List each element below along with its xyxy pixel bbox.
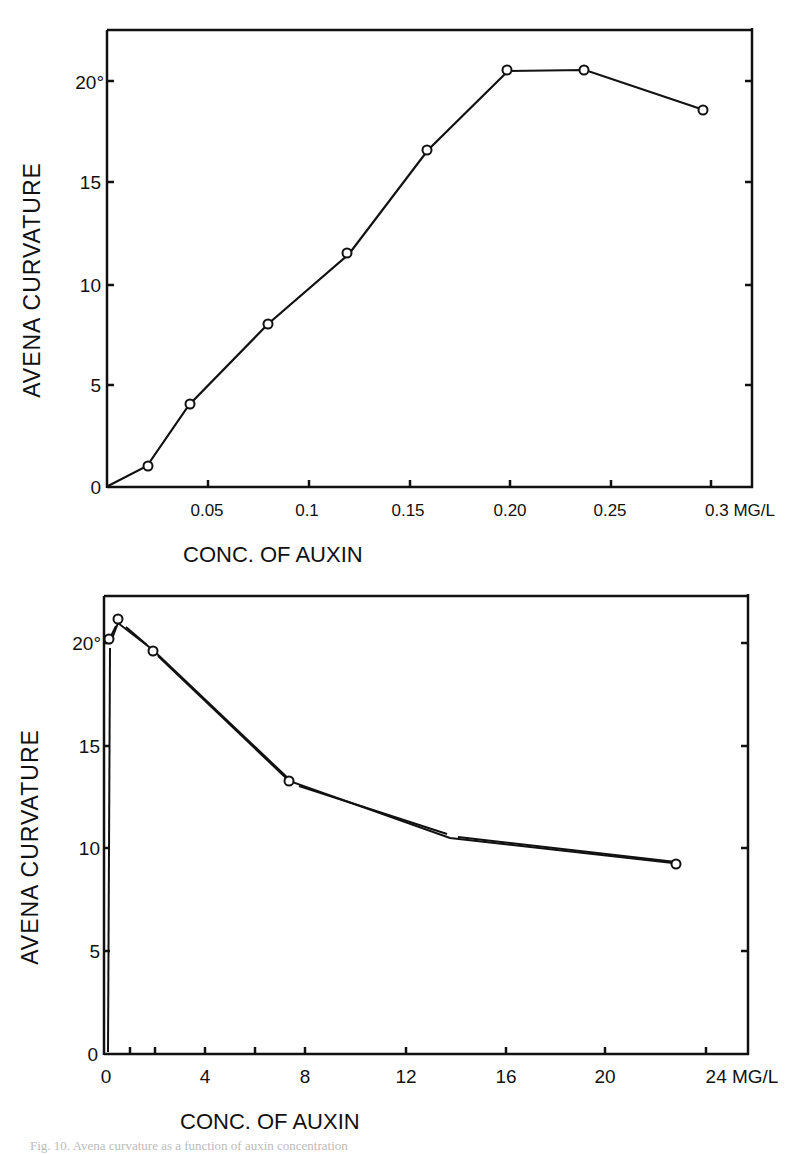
- data-point: [580, 66, 589, 75]
- y-tick-labels: 0 5 10 15 20°: [72, 633, 101, 1065]
- data-point: [285, 777, 294, 786]
- y-tick-labels: 0 5 10 15 20°: [75, 72, 104, 498]
- y-tick-label: 15: [80, 172, 101, 193]
- x-tick-label: 0.1: [295, 501, 319, 520]
- x-tick-label: 8: [300, 1066, 311, 1087]
- y-tick-label: 10: [79, 838, 100, 859]
- data-point: [149, 647, 158, 656]
- data-point: [503, 66, 512, 75]
- x-tick-label: 16: [495, 1066, 516, 1087]
- y-tick-label: 10: [80, 275, 101, 296]
- x-tick-label: 0.25: [593, 501, 626, 520]
- y-axis-title: AVENA CURVATURE: [17, 729, 43, 965]
- plot-frame: [104, 594, 749, 1055]
- y-tick-label: 20°: [72, 633, 101, 654]
- x-tick-label: 12: [395, 1066, 416, 1087]
- y-tick-label: 0: [87, 1044, 98, 1065]
- x-axis-title: CONC. OF AUXIN: [183, 542, 363, 567]
- chart-bottom: 0 5 10 15 20° 0 4 8 12 16 20 24 MG/L AVE…: [0, 575, 807, 1150]
- x-tick-label: 4: [200, 1066, 211, 1087]
- data-line: [108, 626, 676, 1052]
- y-axis-title: AVENA CURVATURE: [19, 162, 45, 398]
- data-point: [264, 320, 273, 329]
- y-tick-label: 5: [89, 941, 100, 962]
- data-point: [114, 615, 123, 624]
- y-tick-label: 0: [90, 477, 101, 498]
- plot-frame: [107, 28, 753, 488]
- x-tick-labels: 0 4 8 12 16 20 24 MG/L: [101, 1066, 779, 1087]
- x-tick-label: 24 MG/L: [706, 1066, 779, 1087]
- data-markers: [105, 615, 681, 869]
- x-tick-label: 0.20: [493, 501, 526, 520]
- x-axis-title: CONC. OF AUXIN: [180, 1109, 360, 1134]
- x-tick-label: 0.05: [190, 501, 223, 520]
- figure-caption: Fig. 10. Avena curvature as a function o…: [0, 1138, 807, 1154]
- y-tick-label: 5: [90, 375, 101, 396]
- x-tick-label: 0.3 MG/L: [705, 501, 775, 520]
- y-tick-label: 20°: [75, 72, 104, 93]
- data-point: [186, 400, 195, 409]
- data-point: [699, 106, 708, 115]
- data-point: [672, 860, 681, 869]
- data-line: [110, 623, 673, 863]
- data-point: [423, 146, 432, 155]
- data-point: [144, 462, 153, 471]
- x-tick-label: 20: [594, 1066, 615, 1087]
- data-point: [343, 249, 352, 258]
- data-markers: [144, 66, 708, 471]
- x-tick-label: 0: [101, 1066, 112, 1087]
- data-line: [108, 70, 704, 486]
- data-point: [105, 635, 114, 644]
- x-tick-label: 0.15: [391, 501, 424, 520]
- chart-top: 0 5 10 15 20° 0.05 0.1 0.15 0.20 0.25 0.…: [0, 0, 807, 575]
- x-tick-labels: 0.05 0.1 0.15 0.20 0.25 0.3 MG/L: [190, 501, 775, 520]
- y-tick-label: 15: [79, 736, 100, 757]
